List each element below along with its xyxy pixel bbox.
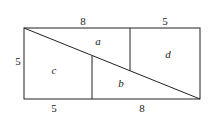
label-left: 5 [15, 55, 21, 67]
label-top-right: 5 [162, 15, 168, 27]
label-bottom-left: 5 [51, 102, 57, 114]
label-top-left: 8 [80, 15, 86, 27]
region-a-label: a [95, 35, 101, 47]
region-c-label: c [52, 64, 57, 76]
diagonal-line [24, 28, 200, 99]
region-d-label: d [165, 48, 171, 60]
region-b-label: b [118, 77, 124, 89]
diagram: 8 5 5 5 8 a b c d [0, 0, 213, 117]
label-bottom-right: 8 [139, 102, 145, 114]
